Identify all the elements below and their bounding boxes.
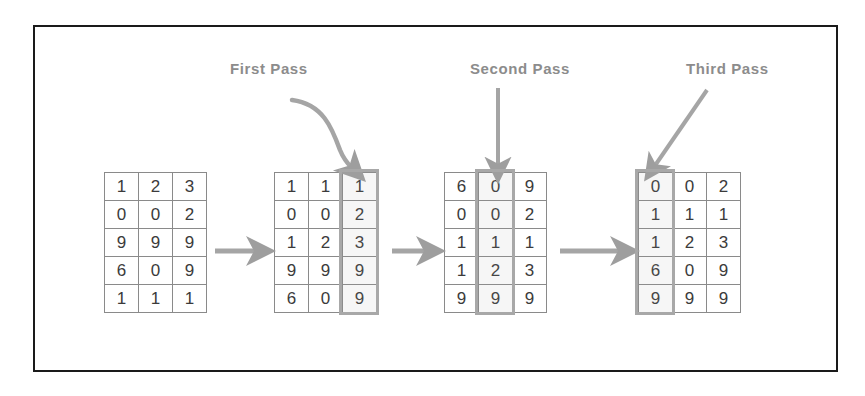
grid-cell: 6 bbox=[445, 173, 479, 201]
label-third-pass: Third Pass bbox=[686, 60, 769, 77]
third-pass-grid: 002111123609999 bbox=[638, 172, 741, 313]
grid-cell: 6 bbox=[105, 257, 139, 285]
grid-cell: 9 bbox=[343, 257, 377, 285]
grid-cell: 1 bbox=[513, 229, 547, 257]
grid-cell: 3 bbox=[343, 229, 377, 257]
grid-cell: 9 bbox=[707, 257, 741, 285]
grid-cell: 9 bbox=[173, 229, 207, 257]
grid-row: 111 bbox=[275, 173, 377, 201]
label-second-pass: Second Pass bbox=[470, 60, 570, 77]
grid-cell: 2 bbox=[173, 201, 207, 229]
grid-cell: 1 bbox=[673, 201, 707, 229]
grid-cell: 0 bbox=[479, 173, 513, 201]
label-first-pass: First Pass bbox=[230, 60, 308, 77]
second-pass-grid: 609002111123999 bbox=[444, 172, 547, 313]
grid-row: 999 bbox=[105, 229, 207, 257]
grid-cell: 2 bbox=[309, 229, 343, 257]
grid-cell: 2 bbox=[707, 173, 741, 201]
grid-cell: 1 bbox=[479, 229, 513, 257]
grid-cell: 3 bbox=[513, 257, 547, 285]
grid-row: 609 bbox=[275, 285, 377, 313]
grid-cell: 0 bbox=[105, 201, 139, 229]
grid-cell: 0 bbox=[309, 285, 343, 313]
grid-cell: 1 bbox=[445, 229, 479, 257]
grid-cell: 3 bbox=[173, 173, 207, 201]
grid-row: 111 bbox=[639, 201, 741, 229]
grid-cell: 9 bbox=[639, 285, 673, 313]
grid-cell: 9 bbox=[673, 285, 707, 313]
first-pass-grid: 111002123999609 bbox=[274, 172, 377, 313]
grid-cell: 1 bbox=[275, 173, 309, 201]
grid-cell: 0 bbox=[139, 257, 173, 285]
grid-cell: 0 bbox=[309, 201, 343, 229]
grid-row: 609 bbox=[445, 173, 547, 201]
grid-cell: 9 bbox=[139, 229, 173, 257]
grid-row: 111 bbox=[445, 229, 547, 257]
initial-grid: 123002999609111 bbox=[104, 172, 207, 313]
grid-row: 002 bbox=[105, 201, 207, 229]
grid-cell: 1 bbox=[309, 173, 343, 201]
grid-row: 002 bbox=[639, 173, 741, 201]
grid-cell: 9 bbox=[707, 285, 741, 313]
grid-cell: 9 bbox=[105, 229, 139, 257]
grid-row: 123 bbox=[275, 229, 377, 257]
grid-row: 123 bbox=[445, 257, 547, 285]
grid-cell: 1 bbox=[139, 285, 173, 313]
grid-row: 999 bbox=[639, 285, 741, 313]
grid-cell: 2 bbox=[479, 257, 513, 285]
grid-cell: 2 bbox=[343, 201, 377, 229]
grid-cell: 2 bbox=[513, 201, 547, 229]
grid-cell: 9 bbox=[445, 285, 479, 313]
grid-cell: 1 bbox=[639, 201, 673, 229]
grid-cell: 9 bbox=[275, 257, 309, 285]
grid-cell: 1 bbox=[343, 173, 377, 201]
grid-row: 123 bbox=[105, 173, 207, 201]
grid-row: 999 bbox=[275, 257, 377, 285]
grid-cell: 1 bbox=[707, 201, 741, 229]
grid-cell: 0 bbox=[673, 173, 707, 201]
grid-cell: 1 bbox=[105, 173, 139, 201]
grid-cell: 9 bbox=[513, 173, 547, 201]
grid-cell: 9 bbox=[513, 285, 547, 313]
grid-row: 609 bbox=[639, 257, 741, 285]
grid-cell: 2 bbox=[673, 229, 707, 257]
grid-cell: 1 bbox=[105, 285, 139, 313]
grid-cell: 0 bbox=[639, 173, 673, 201]
grid-cell: 2 bbox=[139, 173, 173, 201]
grid-cell: 1 bbox=[173, 285, 207, 313]
grid-row: 111 bbox=[105, 285, 207, 313]
diagram-canvas: First Pass Second Pass Third Pass 123002… bbox=[0, 0, 865, 396]
grid-cell: 0 bbox=[139, 201, 173, 229]
grid-cell: 0 bbox=[673, 257, 707, 285]
grid-cell: 9 bbox=[309, 257, 343, 285]
grid-cell: 1 bbox=[445, 257, 479, 285]
grid-cell: 9 bbox=[343, 285, 377, 313]
grid-cell: 9 bbox=[173, 257, 207, 285]
grid-cell: 6 bbox=[275, 285, 309, 313]
grid-row: 609 bbox=[105, 257, 207, 285]
grid-cell: 0 bbox=[275, 201, 309, 229]
grid-row: 999 bbox=[445, 285, 547, 313]
grid-cell: 1 bbox=[639, 229, 673, 257]
grid-cell: 6 bbox=[639, 257, 673, 285]
grid-cell: 1 bbox=[275, 229, 309, 257]
grid-cell: 3 bbox=[707, 229, 741, 257]
grid-cell: 0 bbox=[479, 201, 513, 229]
grid-row: 123 bbox=[639, 229, 741, 257]
grid-cell: 0 bbox=[445, 201, 479, 229]
grid-cell: 9 bbox=[479, 285, 513, 313]
grid-row: 002 bbox=[275, 201, 377, 229]
grid-row: 002 bbox=[445, 201, 547, 229]
